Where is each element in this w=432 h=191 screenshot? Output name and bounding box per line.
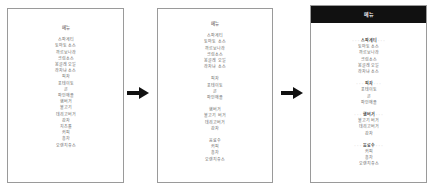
menu-item: 오렌지쥬스 [8,143,123,149]
plain-menu-list: 메뉴스파게티토마토 소스까르보나라크림소스봉골레 오일라자냐 소스피자포테이토콘… [8,25,123,149]
panel-headed-list: 메뉴 스파게티토마토 소스까르보나라크림소스봉골레 오일라자냐 소스피자포테이토… [310,5,427,183]
menu-item: 오렌지쥬스 [158,157,272,163]
menu-item: 오렌지쥬스 [311,161,426,167]
headed-menu-list: 스파게티토마토 소스까르보나라크림소스봉골레 오일라자냐 소스피자포테이토콘파인… [311,38,426,168]
menu-header-bar: 메뉴 [311,6,426,23]
arrow-right-icon [127,87,149,99]
arrow-right-icon [281,87,303,99]
panel-plain-list: 메뉴스파게티토마토 소스까르보나라크림소스봉골레 오일라자냐 소스피자포테이토콘… [7,8,124,183]
panel-grouped-list: 메뉴스파게티토마토 소스까르보나라크림소스봉골레 오일라자냐 소스피자포테이토콘… [157,8,273,183]
grouped-menu-list: 메뉴스파게티토마토 소스까르보나라크림소스봉골레 오일라자냐 소스피자포테이토콘… [158,21,272,163]
